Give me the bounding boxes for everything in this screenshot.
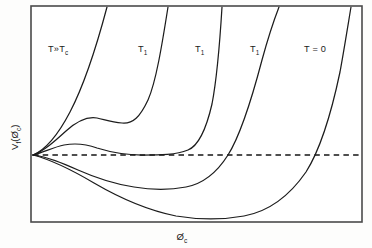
- y-axis-label: Vf(Øc): [9, 125, 22, 150]
- label-t1-a-sub: 1: [144, 49, 148, 56]
- x-axis-label: Øc: [177, 231, 188, 244]
- x-axis-label-sub: c: [184, 237, 188, 244]
- label-t-zero-main: T = 0: [304, 44, 326, 54]
- plot-frame: [31, 6, 362, 222]
- label-t1-c-sub: 1: [256, 49, 260, 56]
- label-t1-b-sub: 1: [201, 49, 205, 56]
- y-axis-label-mid: (Ø: [9, 131, 20, 142]
- figure-container: T»Tc T1 T1 T1 T = 0 Vf(Øc) Øc: [0, 0, 372, 248]
- label-t-zero: T = 0: [304, 44, 326, 54]
- effective-potential-figure: T»Tc T1 T1 T1 T = 0 Vf(Øc) Øc: [0, 0, 372, 248]
- label-t-much-greater-tc-sub: c: [65, 49, 69, 56]
- y-axis-label-end: ): [9, 125, 20, 128]
